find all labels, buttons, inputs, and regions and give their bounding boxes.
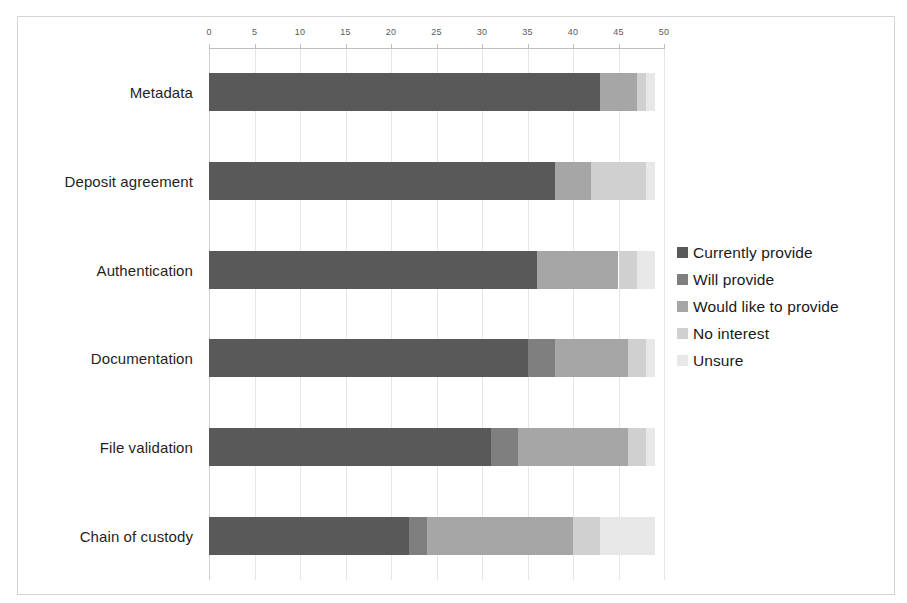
bar-segment [646, 162, 655, 200]
bar-segment [573, 517, 600, 555]
bar-segment [518, 428, 627, 466]
bar-segment [491, 428, 518, 466]
legend-label: Currently provide [693, 244, 813, 262]
legend-item[interactable]: Currently provide [677, 239, 892, 266]
bar-segment [209, 428, 491, 466]
bar-segment [555, 162, 591, 200]
legend-swatch-icon [677, 247, 688, 258]
category-label: File validation [100, 439, 193, 456]
bar-segment [628, 428, 646, 466]
bar-segment [628, 339, 646, 377]
legend-label: Will provide [693, 271, 774, 289]
bar-segment [619, 251, 637, 289]
legend-item[interactable]: No interest [677, 320, 892, 347]
legend-swatch-icon [677, 274, 688, 285]
bar-segment [600, 517, 655, 555]
chart-frame: 05101520253035404550 MetadataDeposit agr… [17, 16, 895, 595]
bar-segment [537, 251, 619, 289]
bar-segment [591, 162, 646, 200]
bar-row [209, 517, 664, 555]
gridline-15 [346, 48, 347, 580]
x-tick-label-0: 0 [206, 27, 211, 37]
x-tick-label-10: 10 [295, 27, 305, 37]
x-tick-label-50: 50 [659, 27, 669, 37]
legend-label: Would like to provide [693, 298, 839, 316]
gridline-45 [619, 48, 620, 580]
x-tick-mark-10 [300, 44, 301, 49]
x-tick-mark-45 [619, 44, 620, 49]
bar-segment [646, 339, 655, 377]
x-axis-tick-labels: 05101520253035404550 [209, 27, 664, 43]
x-tick-label-5: 5 [252, 27, 257, 37]
bar-segment [600, 73, 636, 111]
legend-swatch-icon [677, 355, 688, 366]
x-tick-mark-40 [573, 44, 574, 49]
category-label: Documentation [91, 350, 193, 367]
legend-swatch-icon [677, 301, 688, 312]
bar-segment [555, 339, 628, 377]
plot-area [209, 48, 664, 580]
legend-label: Unsure [693, 352, 744, 370]
bar-segment [209, 517, 409, 555]
bar-segment [637, 73, 646, 111]
bar-row [209, 428, 664, 466]
gridline-35 [528, 48, 529, 580]
category-label: Metadata [130, 84, 193, 101]
x-tick-mark-35 [528, 44, 529, 49]
x-tick-mark-30 [482, 44, 483, 49]
category-label: Authentication [97, 261, 193, 278]
bar-segment [409, 517, 427, 555]
legend-item[interactable]: Would like to provide [677, 293, 892, 320]
legend-swatch-icon [677, 328, 688, 339]
bar-segment [209, 339, 528, 377]
legend-label: No interest [693, 325, 769, 343]
legend-item[interactable]: Unsure [677, 347, 892, 374]
category-label: Deposit agreement [65, 173, 193, 190]
legend-item[interactable]: Will provide [677, 266, 892, 293]
bar-segment [528, 339, 555, 377]
gridline-10 [300, 48, 301, 580]
x-tick-mark-15 [346, 44, 347, 49]
x-tick-label-25: 25 [431, 27, 441, 37]
gridline-30 [482, 48, 483, 580]
x-tick-label-30: 30 [477, 27, 487, 37]
gridline-40 [573, 48, 574, 580]
category-axis-labels: MetadataDeposit agreementAuthenticationD… [18, 48, 203, 580]
x-tick-label-15: 15 [340, 27, 350, 37]
bar-row [209, 339, 664, 377]
x-tick-mark-0 [209, 44, 210, 49]
bar-segment [209, 251, 537, 289]
x-tick-label-45: 45 [613, 27, 623, 37]
bar-segment [637, 251, 655, 289]
x-tick-label-40: 40 [568, 27, 578, 37]
bar-segment [427, 517, 573, 555]
x-tick-mark-50 [664, 44, 665, 49]
x-tick-label-20: 20 [386, 27, 396, 37]
bar-row [209, 251, 664, 289]
gridline-0 [209, 48, 210, 580]
x-tick-label-35: 35 [522, 27, 532, 37]
x-tick-mark-5 [255, 44, 256, 49]
bar-segment [646, 428, 655, 466]
chart-legend: Currently provideWill provideWould like … [677, 239, 892, 374]
bar-row [209, 162, 664, 200]
bar-segment [209, 73, 600, 111]
bar-segment [646, 73, 655, 111]
gridline-5 [255, 48, 256, 580]
x-tick-mark-20 [391, 44, 392, 49]
x-tick-mark-25 [437, 44, 438, 49]
gridline-50 [664, 48, 665, 580]
gridline-25 [437, 48, 438, 580]
bar-segment [209, 162, 555, 200]
bar-row [209, 73, 664, 111]
category-label: Chain of custody [80, 527, 193, 544]
gridline-20 [391, 48, 392, 580]
